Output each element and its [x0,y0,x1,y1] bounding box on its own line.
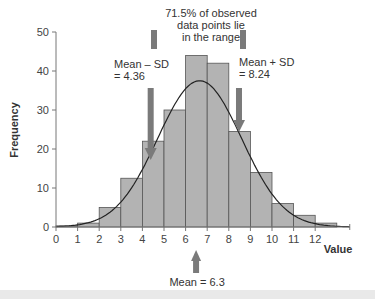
y-tick-label: 50 [37,26,49,38]
histogram-bar [164,110,186,227]
range-annotation: in the range [182,31,240,43]
x-tick-label: 7 [204,233,210,245]
arrow-up-icon [191,250,201,261]
histogram-bar [78,223,100,227]
histogram-bar [207,63,229,227]
x-tick-label: 0 [53,233,59,245]
x-tick-label: 4 [139,233,145,245]
range-annotation: 71.5% of observed [165,7,257,19]
x-tick-label: 9 [247,233,253,245]
x-tick-label: 10 [266,233,278,245]
x-tick-label: 2 [96,233,102,245]
y-axis-label: Frequency [8,101,20,158]
x-tick-label: 11 [288,233,299,245]
x-tick-label: 1 [75,233,81,245]
y-tick-label: 20 [37,143,49,155]
x-tick-label: 3 [118,233,124,245]
y-tick-label: 0 [43,221,49,233]
y-tick-label: 40 [37,65,49,77]
x-tick-label: 5 [161,233,167,245]
bottom-strip [0,290,375,299]
x-tick-label: 6 [183,233,189,245]
mean-label: Mean = 6.3 [169,276,224,288]
y-tick-label: 10 [37,182,49,194]
range-annotation: data points lie [177,19,245,31]
arrow-down-icon [233,120,245,132]
x-tick-label: 12 [309,233,321,245]
mean-minus-sd-label: = 4.36 [114,70,145,82]
histogram-bar [250,172,272,227]
mean-plus-sd-label: = 8.24 [239,68,270,80]
mean-plus-sd-label: Mean + SD [239,56,294,68]
x-axis-label: Value [324,243,353,255]
mean-minus-sd-label: Mean – SD [114,58,169,70]
histogram-bar [229,131,251,227]
x-tick-label: 8 [226,233,232,245]
range-bracket-left [151,30,157,49]
histogram-chart: 010203040500123456789101112 71.5% of obs… [0,0,375,299]
range-bracket-right [240,30,246,49]
y-tick-label: 30 [37,104,49,116]
histogram-bar [121,178,143,227]
